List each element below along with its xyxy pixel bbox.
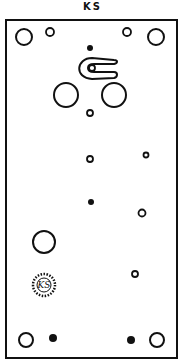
hole-top-left-large-icon [16, 29, 32, 45]
hole-left-large-hole-icon [54, 83, 78, 107]
hole-center-dot-icon [88, 199, 94, 205]
hole-bottom-left-ring-icon [19, 333, 33, 347]
hole-top-right-small-icon [123, 28, 131, 36]
hole-right-small-1-icon [144, 153, 149, 158]
hole-center-small-2-icon [87, 156, 93, 162]
hook-inner-ring [89, 65, 95, 71]
hole-top-left-small-icon [46, 28, 54, 36]
hook-slot [79, 58, 117, 79]
hole-bottom-left-dot-icon [49, 334, 57, 342]
ks-logo-stamp: KS [33, 274, 55, 296]
hole-right-large-hole-icon [102, 83, 126, 107]
hole-bottom-right-ring-icon [150, 333, 164, 347]
hole-right-small-2-icon [139, 210, 146, 217]
hole-center-small-1-icon [87, 110, 93, 116]
hole-right-small-3-icon [132, 271, 138, 277]
plate-diagram: KS [0, 0, 185, 363]
hole-lower-left-large-icon [33, 231, 55, 253]
hole-bottom-right-dot-icon [127, 336, 135, 344]
hole-top-right-large-icon [148, 29, 164, 45]
holes-group [16, 28, 164, 347]
hole-top-center-dot-icon [87, 45, 93, 51]
logo-text: KS [37, 280, 51, 290]
